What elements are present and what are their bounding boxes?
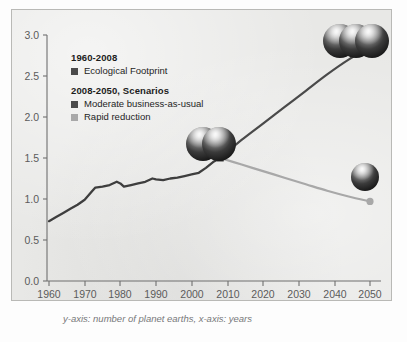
endpoint-marker-rapid-reduction bbox=[366, 198, 373, 205]
chart-figure: 0.0 0.5 1.0 1.5 2.0 2.5 3.0 1960 1970 19… bbox=[0, 0, 407, 342]
x-tick-label: 2010 bbox=[216, 288, 240, 300]
y-axis-tick-labels: 0.0 0.5 1.0 1.5 2.0 2.5 3.0 bbox=[24, 29, 39, 287]
y-tick-label: 0.0 bbox=[24, 275, 39, 287]
legend-item-label: Ecological Footprint bbox=[84, 66, 167, 76]
x-axis-tick-labels: 1960 1970 1980 1990 2000 2010 2020 2030 … bbox=[37, 288, 382, 300]
y-tick-label: 0.5 bbox=[24, 234, 39, 246]
x-axis-ticks bbox=[49, 281, 370, 286]
legend-item-rapid-reduction: Rapid reduction bbox=[71, 112, 251, 122]
x-tick-label: 1990 bbox=[144, 288, 168, 300]
x-tick-label: 2030 bbox=[287, 288, 311, 300]
chart-caption: y-axis: number of planet earths, x-axis:… bbox=[63, 313, 252, 324]
y-axis-ticks bbox=[43, 35, 47, 281]
x-tick-label: 2040 bbox=[323, 288, 347, 300]
legend-group-historical: 1960-2008 Ecological Footprint bbox=[71, 52, 251, 76]
legend-group-title: 1960-2008 bbox=[71, 52, 251, 63]
legend-item-label: Moderate business-as-usual bbox=[84, 99, 203, 109]
chart-legend: 1960-2008 Ecological Footprint 2008-2050… bbox=[71, 52, 251, 131]
y-tick-label: 2.5 bbox=[24, 70, 39, 82]
x-tick-label: 2000 bbox=[180, 288, 204, 300]
legend-group-scenarios: 2008-2050, Scenarios Moderate business-a… bbox=[71, 85, 251, 122]
legend-group-title: 2008-2050, Scenarios bbox=[71, 85, 251, 96]
legend-item-business-as-usual: Moderate business-as-usual bbox=[71, 99, 251, 109]
legend-swatch-icon bbox=[71, 68, 78, 75]
legend-item-label: Rapid reduction bbox=[84, 112, 151, 122]
series-line-ecological-footprint bbox=[49, 158, 220, 221]
y-tick-label: 1.0 bbox=[24, 193, 39, 205]
legend-item-ecological-footprint: Ecological Footprint bbox=[71, 66, 251, 76]
legend-swatch-icon bbox=[71, 101, 78, 108]
y-tick-label: 2.0 bbox=[24, 111, 39, 123]
three-earths-icon bbox=[322, 22, 390, 62]
x-tick-label: 1980 bbox=[108, 288, 132, 300]
legend-swatch-icon bbox=[71, 114, 78, 121]
series-line-rapid-reduction bbox=[220, 158, 370, 201]
x-tick-label: 1970 bbox=[73, 288, 97, 300]
y-tick-label: 1.5 bbox=[24, 152, 39, 164]
one-earth-icon bbox=[350, 162, 380, 192]
y-tick-label: 3.0 bbox=[24, 29, 39, 41]
x-tick-label: 2020 bbox=[251, 288, 275, 300]
x-tick-label: 2050 bbox=[358, 288, 382, 300]
x-tick-label: 1960 bbox=[37, 288, 61, 300]
